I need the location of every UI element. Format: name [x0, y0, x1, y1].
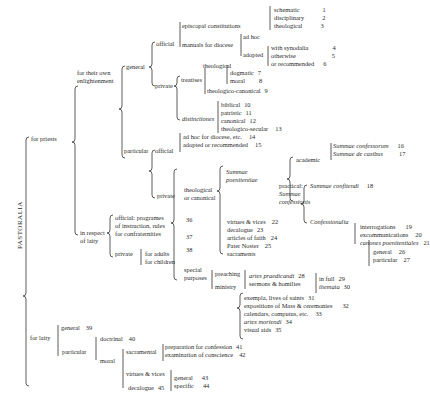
node-ministry: ministry — [215, 283, 236, 291]
node-own-enlightenment-1: for their own — [77, 69, 110, 77]
node-theological-3: theological3 — [274, 22, 324, 30]
node-examination: examination of conscience42 — [165, 351, 246, 359]
node-exempla: exempla, lives of saints31 — [244, 294, 314, 302]
node-adopted: adopted — [243, 51, 263, 59]
node-summae-confitendi: Summae confitendi18 — [310, 182, 373, 190]
node-otherwise: otherwise5 — [271, 52, 335, 60]
node-canonical: canonical12 — [221, 117, 256, 125]
node-theol-canon-2: or canonical — [184, 194, 215, 202]
node-practical-2: Summae — [279, 190, 301, 198]
node-specific-44: specific44 — [174, 382, 209, 390]
node-sacraments: sacraments — [227, 250, 255, 258]
node-calendars: calendars, computus, etc.33 — [244, 310, 322, 318]
brace-theol-canon — [217, 166, 223, 254]
node-visual-aids: visual aids35 — [244, 326, 282, 334]
brace-laity — [107, 215, 113, 257]
node-practical-1: practical: — [279, 182, 303, 190]
node-articles-of-faith: articles of faith24 — [227, 234, 277, 242]
node-official-laity-3: for confraternities — [115, 230, 161, 238]
node-ad-hoc-diocese: ad hoc for diocese, etc.14 — [183, 133, 255, 141]
node-for-priests: for priests — [31, 135, 57, 143]
node-practical-3: confessionis — [279, 198, 310, 206]
node-with-synodalia: with synodalia4 — [271, 44, 336, 52]
brace-priests — [72, 86, 78, 235]
node-summae-confessorum: Summae confessorum16 — [333, 142, 404, 150]
node-in-respect-2: of laity — [80, 237, 98, 245]
node-canones: canones poenitentiales21 — [360, 239, 430, 247]
node-pater-noster: Pater Noster25 — [227, 242, 271, 250]
node-official-laity-1: official: programes — [115, 214, 164, 222]
node-adopted-recommended: adopted or recommended15 — [183, 141, 261, 149]
node-official: official — [156, 40, 174, 48]
node-disciplinary: disciplinary2 — [274, 14, 325, 22]
node-general-39: general39 — [61, 324, 92, 332]
node-confessionalia: Confessionalia — [310, 218, 348, 226]
node-in-respect-1: in respect — [80, 229, 105, 237]
node-episcopal: episcopal constitutions — [182, 22, 240, 30]
node-patristic: patristic11 — [221, 109, 252, 117]
node-for-laity: for laity — [30, 334, 50, 342]
node-theologico-secular: theologico-secular13 — [221, 125, 282, 133]
node-excommunications: excommunications20 — [360, 231, 422, 239]
node-themata: themata30 — [319, 283, 350, 291]
brace-own — [119, 66, 125, 158]
brace-general — [149, 42, 155, 86]
node-moral: moral8 — [230, 77, 262, 85]
node-manuals: manuals for diocese — [182, 41, 233, 49]
node-special-2: purposes — [184, 274, 207, 282]
node-ad-hoc: ad hoc — [243, 33, 260, 41]
node-decalogue-23: decalogue23 — [227, 226, 263, 234]
node-virtues-vices-22: virtues & vices22 — [227, 218, 278, 226]
node-distinctiones: distinctiones — [182, 115, 214, 123]
node-virtues-vices-laity: virtues & vices — [126, 370, 165, 378]
node-preaching: preaching — [215, 270, 240, 278]
node-doctrinal: doctrinal40 — [100, 335, 135, 343]
node-sacramental: sacramental — [126, 348, 157, 356]
node-official-laity-2: of instruction, rules — [115, 222, 165, 230]
node-moral-laity: moral — [100, 357, 115, 365]
node-particular-27: particular27 — [373, 256, 410, 264]
node-private-laity: private — [115, 250, 133, 258]
node-decalogue-45: decalogue45 — [128, 384, 164, 392]
node-theologico-canonical: theologico-canonical9 — [207, 87, 268, 95]
node-private: private — [155, 82, 173, 90]
node-academic: academic — [296, 156, 320, 164]
brace-particular — [149, 150, 155, 198]
node-interrogations: interrogations19 — [360, 223, 412, 231]
node-general-43: general43 — [174, 374, 208, 382]
node-own-enlightenment-2: enlightenment — [77, 77, 114, 85]
node-preparation: preparation for confession41 — [165, 343, 242, 351]
node-expositions: expositions of Mass & ceremonies32 — [244, 302, 349, 310]
node-or-recommended: or recommended6 — [271, 60, 326, 68]
node-for-children: for children — [145, 258, 175, 266]
node-theological: theological — [203, 62, 231, 70]
node-treatises: treatises — [181, 76, 202, 84]
node-artes-moriendi: artes moriendi34 — [244, 318, 292, 326]
node-private-particular: private — [157, 192, 175, 200]
node-particular: particular — [124, 147, 148, 155]
node-37: 37 — [186, 233, 192, 241]
node-theol-canon-1: theological — [184, 186, 212, 194]
node-official-particular: official — [155, 147, 173, 155]
brace-ministry — [237, 293, 243, 339]
node-summae-de-casibus: Summae de casibus17 — [333, 150, 405, 158]
node-36: 36 — [186, 216, 192, 224]
node-special-1: special — [184, 266, 202, 274]
node-sermons: sermons & homilies — [249, 280, 300, 288]
node-biblical: biblical10 — [221, 101, 251, 109]
node-general: general — [126, 63, 145, 71]
node-summae-poenitentiae-2: poenitentiae — [226, 176, 258, 184]
node-for-adults: for adults — [145, 250, 169, 258]
brace-pastoralia — [23, 137, 29, 386]
node-schematic: schematic1 — [274, 6, 326, 14]
node-in-full: in full29 — [319, 275, 345, 283]
node-summae-poenitentiae-1: Summae — [226, 168, 248, 176]
node-artes-praedicandi: artes praedicandi28 — [249, 272, 305, 280]
node-38: 38 — [186, 246, 192, 254]
node-general-26: general26 — [373, 248, 405, 256]
node-dogmatic: dogmatic7 — [230, 69, 261, 77]
brace-private — [174, 76, 180, 120]
node-particular-laity: particular — [62, 348, 86, 356]
